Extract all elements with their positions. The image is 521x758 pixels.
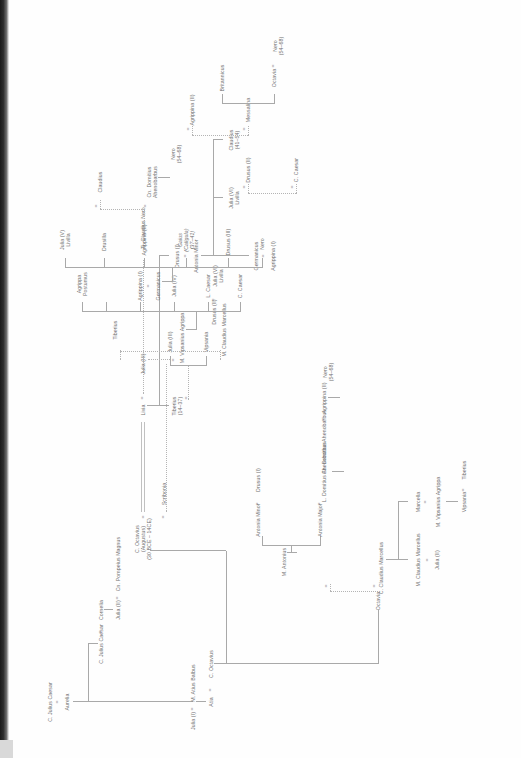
node-nero-top: Nero (54–68) [272,37,284,56]
connector [192,135,248,136]
person-alt-name: Livilla [234,187,240,209]
connector [104,258,105,268]
connector [262,536,263,546]
connector [150,550,226,551]
person-dates: (54–68) [278,37,284,56]
connector [324,452,325,462]
connector [73,701,88,702]
connector [226,551,227,664]
person-name: Antonia Minor [255,503,261,536]
person-name: M. Vipsanius Agrippa [179,313,185,364]
node-m-vipsanius-agrippa-a: M. Vipsanius Agrippa [435,477,441,528]
connector [158,177,170,178]
node-m-claudius-marcellus-a: M. Claudius Marcellus [415,533,421,586]
connector [398,501,408,502]
node-atia: Atia [208,697,214,706]
node-livia: Livia [140,404,146,415]
connector [240,302,241,312]
node-augustus: C. Octavius (Augustus) (30 BCE – 14CE) [134,518,153,560]
node-drusilla: Drusilla [101,233,107,251]
connector [328,397,340,398]
person-alt-name: Livilla [218,265,224,287]
person-name: Julia (III) [140,353,146,374]
node-octavia-claudius: Octavia [271,69,277,87]
person-name: C. Claudius Marcellus [378,542,384,595]
connector [222,103,274,104]
node-vipsania-a: Vipsania [461,492,467,513]
person-dates: (37–41) [189,228,195,251]
person-name: Octavia [375,592,381,610]
connector [330,584,331,592]
connector [186,258,187,268]
node-julia-v-livilla: Julia (V) Livilla [59,230,71,250]
person-name: Drusus (II) [211,299,217,324]
connector [248,126,249,136]
marriage-symbol: = [324,584,329,587]
connector [248,184,249,194]
node-gaius-caligula: Gaius (Caligula) (37–41) [177,228,196,251]
marriage-symbol: = [242,185,247,188]
connector [248,193,296,194]
marriage-symbol: = [98,630,103,633]
connector [82,302,83,312]
node-antonia-minor: Antonia Minor [255,503,261,536]
connector [140,302,141,312]
marriage-symbol: = [186,127,191,130]
node-nero: Nero (54–68) [170,145,182,164]
connector [320,536,321,546]
connector [330,591,378,592]
node-octavia: Octavia [375,592,381,610]
person-name: Drusus (II) [245,157,251,182]
person-name: Drusus (III) [225,229,231,256]
node-agrippina-ii-top: Agrippina (II) [189,94,195,125]
marriage-symbol: = [372,584,377,587]
marriage-symbol: = [461,488,466,491]
marriage-symbol: = [211,298,216,301]
person-name: Julia (III) [167,331,173,352]
node-m-atius-balbus: M. Atius Balbus [190,664,196,701]
person-name: Agrippina (I) [270,241,276,271]
marriage-symbol: = [255,502,260,505]
person-name: M. Claudius Marcellus [415,533,421,586]
node-nero-germanicus: Nero [259,238,265,250]
connector [120,351,220,352]
person-name: Aurelia [64,694,70,711]
connector [100,200,101,210]
node-germanicus: Germanicus [155,271,161,300]
person-name: Julia (II) [434,550,440,570]
connector [148,359,170,360]
node-agrippina-i-top: Agrippina (I) [270,241,276,271]
chart-page: C. Julius Caesar = Aurelia Julia (I) = M… [0,0,521,758]
marriage-symbol: = [321,418,326,421]
person-name: C. Caesar [293,158,299,182]
person-name: Claudius [97,171,103,192]
connector [398,559,408,560]
node-tiberius-spouse: Tiberius [112,320,118,339]
node-tiberius: Tiberius (14–37) [171,396,183,415]
connector [208,302,209,312]
connector [287,552,297,553]
marriage-symbol: = [94,204,99,207]
node-drusus-ii-right: Drusus (II) [245,157,251,182]
connector [162,281,172,282]
node-julia-iii: Julia (III) [140,353,146,374]
node-m-vipsanius-agrippa: M. Vipsanius Agrippa [179,313,185,364]
person-name: C. Octavius [208,650,214,678]
node-claudius-spouse: Claudius [97,171,103,192]
connector [147,405,159,406]
connector [174,302,175,312]
connector [213,139,223,140]
connector [100,209,144,210]
connector [196,701,206,702]
node-cornelia: Cornelia [98,600,104,620]
person-name: C. Julius Caesar [47,682,53,722]
marriage-symbol: = [271,64,276,67]
connector [196,312,197,330]
node-l-caesar: L. Caesar [205,274,211,297]
connector [201,255,213,256]
connector [378,610,379,664]
node-agrippina-i: Agrippina (I) [137,271,143,301]
person-name: Cornelia [98,600,104,620]
person-name: Germanicus [155,271,161,300]
connector [206,356,207,366]
